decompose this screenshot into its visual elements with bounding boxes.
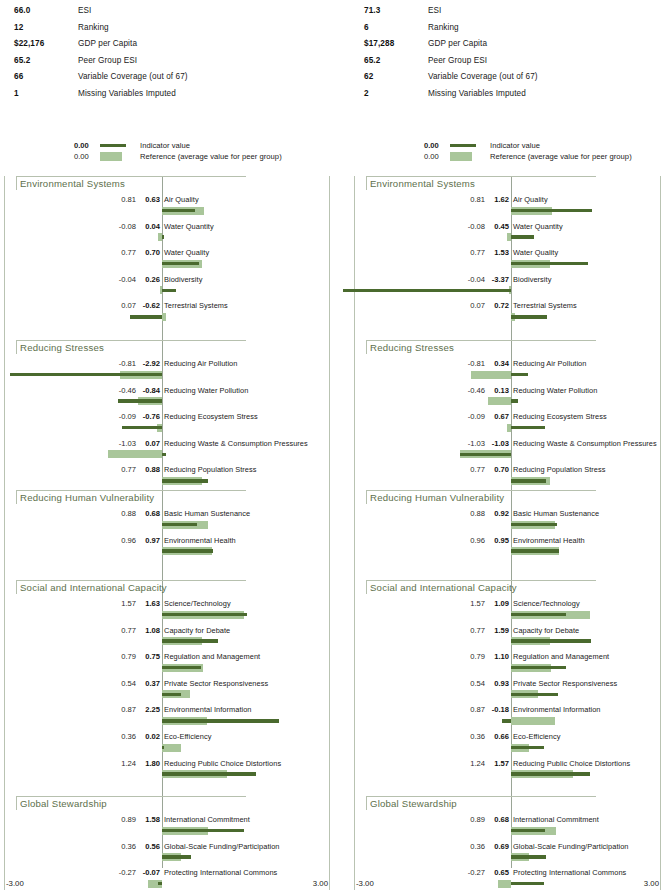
indicator-bar <box>162 639 218 642</box>
row-indicator-value: 0.70 <box>139 248 160 257</box>
row-indicator-value: 1.57 <box>488 759 509 768</box>
row-label-group: 0.770.88Reducing Population Stress <box>110 465 257 476</box>
row-indicator-value: 0.04 <box>139 222 160 231</box>
summary-value: 65.2 <box>364 56 428 65</box>
row-indicator-value: 0.68 <box>139 509 160 518</box>
row-reference-value: 0.89 <box>110 815 136 824</box>
row-indicator-name: Air Quality <box>164 195 199 204</box>
legend-reference-swatch-wrap <box>450 152 490 161</box>
row-indicator-name: Terrestrial Systems <box>164 301 228 310</box>
row-label-group: 0.360.66Eco-Efficiency <box>459 732 560 743</box>
summary-value: 66.0 <box>14 6 78 15</box>
row-label-group: 0.540.37Private Sector Responsiveness <box>110 679 268 690</box>
row-indicator-name: Water Quality <box>164 248 209 257</box>
row-reference-value: 0.77 <box>459 465 485 474</box>
indicator-row: 0.880.92Basic Human Sustenance <box>354 509 661 536</box>
row-indicator-name: Basic Human Sustenance <box>513 509 599 518</box>
summary-value: 2 <box>364 89 428 98</box>
indicator-row: 0.880.68Basic Human Sustenance <box>4 509 330 536</box>
row-reference-value: -0.04 <box>110 275 136 284</box>
row-indicator-value: 0.75 <box>139 652 160 661</box>
row-reference-value: -1.03 <box>110 439 136 448</box>
legend-indicator-swatch-wrap <box>450 144 490 147</box>
indicator-row: -0.09-0.76Reducing Ecosystem Stress <box>4 412 330 439</box>
row-indicator-name: International Commitment <box>513 815 599 824</box>
row-indicator-name: Basic Human Sustenance <box>164 509 250 518</box>
indicator-bar <box>511 399 518 402</box>
section-title: Reducing Human Vulnerability <box>20 492 154 503</box>
row-indicator-value: 0.72 <box>488 301 509 310</box>
indicator-row: 0.360.69Global-Scale Funding/Participati… <box>354 842 661 869</box>
summary-value: 12 <box>14 23 78 32</box>
indicator-bar <box>162 523 197 526</box>
indicator-bar <box>511 235 534 238</box>
row-label-group: 0.891.58International Commitment <box>110 815 250 826</box>
row-indicator-value: 0.07 <box>139 439 160 448</box>
indicator-bar <box>122 426 162 429</box>
legend-reference-value: 0.00 <box>424 152 450 161</box>
indicator-row: 0.070.72Terrestrial Systems <box>354 301 661 328</box>
row-indicator-value: 0.26 <box>139 275 160 284</box>
indicator-row: 0.811.62Air Quality <box>354 195 661 222</box>
indicator-line-swatch-icon <box>100 144 126 147</box>
row-indicator-value: 2.25 <box>139 705 160 714</box>
row-indicator-value: 1.53 <box>488 248 509 257</box>
row-label-group: 0.360.56Global-Scale Funding/Participati… <box>110 842 280 853</box>
row-indicator-value: -2.92 <box>139 359 160 368</box>
indicator-row: -1.03-1.03Reducing Waste & Consumption P… <box>354 439 661 466</box>
row-label-group: 0.811.62Air Quality <box>459 195 548 206</box>
indicator-row: 0.791.10Regulation and Management <box>354 652 661 679</box>
row-indicator-value: -1.03 <box>488 439 509 448</box>
row-reference-value: 0.87 <box>459 705 485 714</box>
row-reference-value: 1.24 <box>459 759 485 768</box>
row-label-group: 0.960.95Environmental Health <box>459 536 585 547</box>
row-indicator-name: Capacity for Debate <box>164 626 230 635</box>
legend-row-reference: 0.00Reference (average value for peer gr… <box>424 151 632 162</box>
row-label-group: -0.090.67Reducing Ecosystem Stress <box>459 412 607 423</box>
row-reference-value: 0.88 <box>459 509 485 518</box>
indicator-row: 0.872.25Environmental Information <box>4 705 330 732</box>
row-reference-value: -0.81 <box>459 359 485 368</box>
summary-table-left: 66.0ESI12Ranking$22,176GDP per Capita65.… <box>14 6 188 105</box>
indicator-row: 0.771.53Water Quality <box>354 248 661 275</box>
row-indicator-name: Environmental Information <box>164 705 252 714</box>
row-label-group: -0.080.04Water Quantity <box>110 222 214 233</box>
row-indicator-name: Terrestrial Systems <box>513 301 577 310</box>
indicator-row: 0.890.68International Commitment <box>354 815 661 842</box>
indicator-row: 0.960.95Environmental Health <box>354 536 661 563</box>
reference-box-swatch-icon <box>100 152 122 161</box>
row-label-group: -0.81-2.92Reducing Air Pollution <box>110 359 237 370</box>
row-reference-value: 0.77 <box>110 465 136 474</box>
indicator-row: -0.810.34Reducing Air Pollution <box>354 359 661 386</box>
indicator-row: 0.770.88Reducing Population Stress <box>4 465 330 492</box>
row-label-group: 0.540.93Private Sector Responsiveness <box>459 679 617 690</box>
summary-table-right: 71.3ESI6Ranking$17,288GDP per Capita65.2… <box>364 6 538 105</box>
row-indicator-name: Environmental Information <box>513 705 601 714</box>
chart-panel-right: Environmental Systems0.811.62Air Quality… <box>354 176 661 890</box>
row-reference-value: 0.79 <box>110 652 136 661</box>
row-reference-value: 1.57 <box>110 599 136 608</box>
row-indicator-name: Reducing Air Pollution <box>164 359 237 368</box>
indicator-row: 0.360.02Eco-Efficiency <box>4 732 330 759</box>
row-label-group: -1.03-1.03Reducing Waste & Consumption P… <box>459 439 657 450</box>
row-indicator-value: 0.97 <box>139 536 160 545</box>
indicator-row: 0.770.70Water Quality <box>4 248 330 275</box>
row-reference-value: -0.27 <box>110 868 136 877</box>
reference-bar <box>471 371 512 379</box>
row-indicator-value: 1.63 <box>139 599 160 608</box>
row-reference-value: 0.07 <box>110 301 136 310</box>
summary-value: 1 <box>14 89 78 98</box>
summary-label: Ranking <box>78 23 109 32</box>
row-indicator-value: 0.92 <box>488 509 509 518</box>
row-label-group: 0.770.70Water Quality <box>110 248 209 259</box>
row-indicator-name: Reducing Water Pollution <box>513 386 597 395</box>
row-label-group: 0.360.69Global-Scale Funding/Participati… <box>459 842 629 853</box>
section-title: Reducing Human Vulnerability <box>370 492 504 503</box>
indicator-row: 1.241.57Reducing Public Choice Distortio… <box>354 759 661 786</box>
row-label-group: 0.791.10Regulation and Management <box>459 652 609 663</box>
indicator-bar <box>511 262 588 265</box>
row-label-group: 1.241.57Reducing Public Choice Distortio… <box>459 759 630 770</box>
row-indicator-name: Private Sector Responsiveness <box>164 679 268 688</box>
row-reference-value: -0.46 <box>459 386 485 395</box>
legend-left: 0.00Indicator value0.00Reference (averag… <box>74 140 282 162</box>
